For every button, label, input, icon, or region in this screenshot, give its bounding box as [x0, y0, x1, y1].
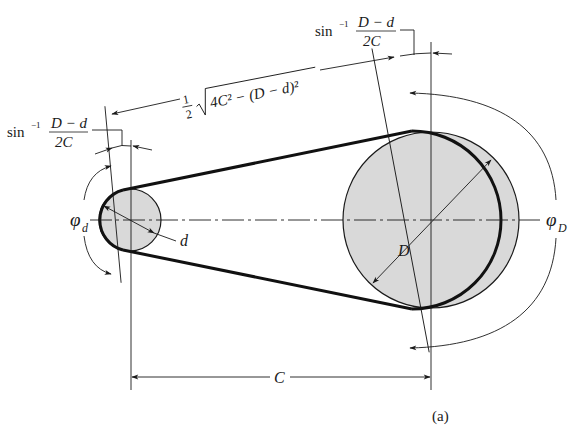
phi-large-label: φ D [546, 209, 567, 235]
right-angle-label: sin −1 D − d 2C [315, 14, 396, 49]
left-angle-label: sin −1 D − d 2C [7, 115, 88, 150]
phi-subscript: D [557, 221, 567, 235]
large-diameter-label: D [397, 242, 410, 259]
span-dimension-right [320, 57, 394, 70]
sin-exponent: −1 [31, 120, 41, 130]
half-denominator: 2 [185, 107, 194, 122]
sin-exponent: −1 [339, 19, 349, 29]
sin-text: sin [315, 23, 333, 39]
span-dimension-left [112, 99, 180, 114]
figure-caption: (a) [432, 408, 449, 425]
right-angle-arc [400, 53, 431, 56]
phi-small-label: φ d [70, 209, 89, 235]
left-angle-arc [112, 145, 131, 148]
fraction-numerator: D − d [357, 14, 394, 30]
small-diameter-leader [154, 233, 176, 241]
phi-symbol: φ [546, 209, 557, 230]
fraction-denominator: 2C [363, 33, 382, 49]
phi-subscript: d [82, 221, 89, 235]
span-length-label: 1 2 4C² − (D − d)² [180, 67, 321, 122]
right-angle-arrow [433, 53, 452, 54]
half-numerator: 1 [182, 92, 191, 107]
right-angle-leader [400, 30, 414, 55]
small-diameter-label: d [180, 232, 189, 249]
radicand: 4C² − (D − d)² [209, 78, 301, 112]
fraction-denominator: 2C [55, 134, 74, 150]
center-distance-label: C [274, 369, 285, 386]
belt-drive-diagram: sin −1 D − d 2C sin −1 D − d 2C 1 2 4C² … [0, 0, 579, 434]
phi-symbol: φ [70, 209, 81, 230]
sin-text: sin [7, 124, 25, 140]
left-angle-arrow-b [133, 146, 152, 150]
fraction-numerator: D − d [50, 115, 87, 131]
phi-small-arc-top [84, 166, 111, 200]
